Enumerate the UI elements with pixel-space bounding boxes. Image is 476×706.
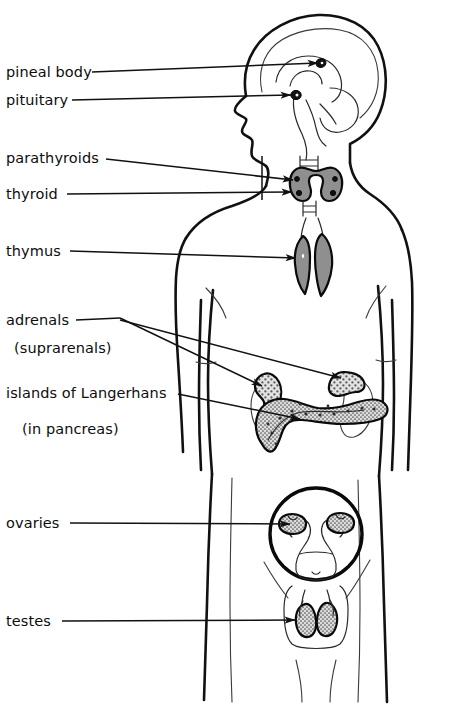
body-figure bbox=[176, 15, 413, 702]
parathyroid-lower-right bbox=[330, 190, 335, 195]
thymus-highlight bbox=[302, 254, 304, 258]
neck-right-outline bbox=[350, 163, 402, 230]
brainstem-outline bbox=[293, 96, 306, 160]
abdominal-organs-group bbox=[251, 372, 387, 452]
leader-adrenals-stem bbox=[76, 318, 120, 320]
thymus-left-lobe bbox=[295, 236, 310, 294]
thigh-gap-line bbox=[296, 660, 302, 702]
leader-adrenals-to-right bbox=[120, 320, 341, 378]
pineal-highlight bbox=[321, 62, 324, 65]
arm-left-inner bbox=[199, 300, 201, 470]
label-testes: testes bbox=[6, 613, 51, 629]
leader-parathyroids bbox=[106, 159, 293, 180]
brain-inner-fold bbox=[290, 71, 322, 86]
uterus-fundus bbox=[300, 552, 332, 554]
label-pituitary: pituitary bbox=[6, 92, 68, 108]
hip-leg-left bbox=[204, 474, 212, 700]
label-adrenals-sublabel: (suprarenals) bbox=[14, 340, 112, 356]
label-adrenals: adrenals bbox=[6, 312, 69, 328]
label-parathyroids: parathyroids bbox=[6, 150, 99, 166]
torso-right-side bbox=[378, 286, 383, 476]
label-ovaries: ovaries bbox=[6, 515, 60, 531]
thyroid-organ bbox=[290, 168, 342, 201]
endocrine-system-diagram: pineal body pituitary parathyroids thyro… bbox=[0, 0, 476, 706]
label-thyroid: thyroid bbox=[6, 186, 58, 202]
leg-left-inner bbox=[230, 478, 232, 702]
testis-left-organ bbox=[296, 604, 316, 637]
ovary-right-organ bbox=[327, 513, 354, 533]
uterus-cervix bbox=[312, 572, 320, 574]
face-profile bbox=[235, 96, 268, 186]
hip-leg-right bbox=[379, 476, 387, 702]
parathyroid-upper-left bbox=[295, 177, 300, 182]
female-reproductive-inset bbox=[270, 488, 362, 580]
scapula-line-right bbox=[366, 286, 386, 318]
parathyroid-upper-right bbox=[333, 177, 338, 182]
label-islands-of-langerhans: islands of Langerhans bbox=[6, 385, 167, 401]
thigh-gap-line-right bbox=[330, 660, 336, 702]
brain-lower-fold bbox=[320, 104, 336, 124]
arm-right-inner bbox=[392, 300, 394, 470]
parathyroid-lower-left bbox=[296, 190, 301, 195]
pituitary-highlight bbox=[296, 94, 299, 97]
torso-left-side bbox=[208, 290, 213, 474]
female-inset-ring bbox=[270, 488, 362, 580]
neck-left-outline bbox=[186, 186, 266, 238]
label-islands-sublabel: (in pancreas) bbox=[22, 421, 119, 437]
thymus-group bbox=[295, 218, 332, 296]
diagram-canvas: pineal body pituitary parathyroids thyro… bbox=[0, 0, 476, 706]
head-outline bbox=[245, 15, 386, 163]
label-group: pineal body pituitary parathyroids thyro… bbox=[6, 64, 167, 629]
leader-ovaries bbox=[70, 523, 290, 524]
leader-pituitary bbox=[72, 95, 291, 100]
label-pineal-body: pineal body bbox=[6, 64, 92, 80]
trachea-lower bbox=[303, 201, 316, 216]
scapula-line-left bbox=[206, 288, 226, 318]
thyroid-gland-group bbox=[290, 156, 342, 216]
leader-pineal-body bbox=[92, 63, 318, 72]
leader-thymus bbox=[70, 251, 296, 258]
shoulder-right-arm bbox=[402, 230, 412, 470]
male-reproductive-inset bbox=[284, 586, 348, 649]
label-thymus: thymus bbox=[6, 243, 61, 259]
testis-right-organ bbox=[317, 603, 337, 636]
thymus-right-lobe bbox=[315, 234, 332, 296]
leader-testes bbox=[62, 620, 295, 621]
